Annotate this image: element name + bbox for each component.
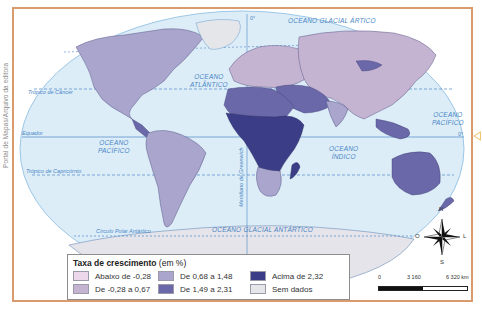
legend-swatch <box>158 284 174 294</box>
scale-bar: 0 3 160 6 320 km <box>376 274 472 296</box>
legend-item: Abaixo de -0,28 <box>73 271 158 281</box>
greenwich-label: Meridiano de Greenwich <box>238 137 244 207</box>
page-edge-marker-inner <box>475 133 480 139</box>
scale-bar-graphic <box>378 286 468 291</box>
legend-swatch <box>158 271 174 281</box>
meridian-degree-label: 0° <box>250 15 255 21</box>
scale-tick-0: 0 <box>378 274 381 280</box>
compass-south: S <box>440 259 444 265</box>
image-credit: Portal de Mapas/Arquivo da editora <box>2 8 12 168</box>
equator-degree-label: 0° <box>458 131 463 137</box>
compass-east: L <box>463 233 466 239</box>
legend-item: Sem dados <box>250 284 340 294</box>
tropic-cancer-label: Trópico de Câncer <box>28 89 73 95</box>
legend-swatch <box>73 284 89 294</box>
compass-west: O <box>415 233 420 239</box>
compass-rose: N S O L <box>417 209 467 265</box>
legend-item: De -0,28 a 0,67 <box>73 284 158 294</box>
ocean-label-pacific-east: OCEANO PACÍFICO <box>432 111 464 127</box>
ocean-label-antarctic: OCEANO GLACIAL ANTÁRTICO <box>212 226 313 234</box>
legend-item: De 1,49 a 2,31 <box>158 284 250 294</box>
antarctic-circle-label: Círculo Polar Antártico <box>96 228 151 234</box>
ocean-label-indian: OCEANO ÍNDICO <box>329 145 358 161</box>
ocean-label-pacific-west: OCEANO PACÍFICO <box>98 139 130 155</box>
legend-item: Acima de 2,32 <box>250 271 340 281</box>
legend-item: De 0,68 a 1,48 <box>158 271 250 281</box>
map-legend: Taxa de crescimento (em %) Abaixo de -0,… <box>67 254 350 300</box>
tropic-capricorn-label: Trópico de Capricórnio <box>26 168 81 174</box>
legend-swatch <box>250 271 266 281</box>
equator-label: Equador <box>22 130 43 136</box>
compass-north: N <box>439 206 443 212</box>
scale-tick-mid: 3 160 <box>407 274 421 280</box>
ocean-label-atlantic: OCEANO ATLÂNTICO <box>190 73 228 89</box>
legend-title: Taxa de crescimento (em %) <box>73 258 344 268</box>
scale-tick-end: 6 320 km <box>446 274 469 280</box>
ocean-label-arctic: OCEANO GLACIAL ÁRTICO <box>288 17 376 25</box>
legend-swatch <box>73 271 89 281</box>
compass-star-icon <box>417 209 467 265</box>
legend-swatch <box>250 284 266 294</box>
